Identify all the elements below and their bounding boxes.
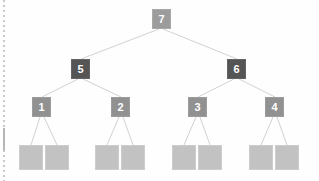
tree-node-label: 3 [194,102,200,113]
tree-leaf-node-L2[interactable] [45,145,69,170]
tree-edge-n5-n2 [83,79,121,97]
tree-leaf-node-L5[interactable] [172,145,196,170]
tree-node-label: 4 [271,102,277,113]
tree-node-7[interactable]: 7 [152,9,171,29]
tree-edge-n3-L5 [184,117,196,145]
tree-node-4[interactable]: 4 [265,97,284,117]
tree-edge-n3-L6 [200,117,210,145]
tree-edge-n4-L7 [261,117,273,145]
tree-edge-n2-L4 [123,117,133,145]
tree-node-label: 6 [233,64,239,75]
tree-node-5[interactable]: 5 [71,59,90,79]
tree-node-6[interactable]: 6 [227,59,246,79]
tree-node-label: 7 [158,14,164,25]
tree-leaf-node-L1[interactable] [19,145,43,170]
tree-node-label: 5 [77,64,83,75]
tree-leaf-node-L7[interactable] [249,145,273,170]
tree-edge-n1-L2 [44,117,57,145]
tree-edge-n6-n3 [198,79,234,97]
tree-diagram-canvas: 7561234 [0,0,319,181]
tree-node-label: 1 [38,102,44,113]
tree-edge-n5-n1 [42,79,78,97]
tree-node-1[interactable]: 1 [32,97,51,117]
tree-edge-n4-L8 [277,117,287,145]
tree-leaf-node-L4[interactable] [121,145,145,170]
tree-edge-n2-L3 [107,117,119,145]
tree-leaf-node-L3[interactable] [95,145,119,170]
tree-edge-n1-L1 [31,117,40,145]
tree-leaf-node-L6[interactable] [198,145,222,170]
tree-edge-n6-n4 [239,79,275,97]
tree-edge-n7-n6 [163,29,237,59]
tree-edge-n7-n5 [81,29,159,59]
tree-node-label: 2 [117,102,123,113]
tree-node-2[interactable]: 2 [111,97,130,117]
tree-node-3[interactable]: 3 [188,97,207,117]
tree-leaf-node-L8[interactable] [275,145,299,170]
